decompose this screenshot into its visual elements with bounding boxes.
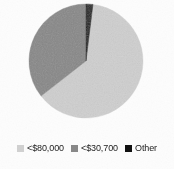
pie-slices-group (29, 4, 143, 118)
legend-swatch-under-30700 (71, 145, 78, 152)
legend-item-under-80000: <$80,000 (17, 143, 64, 153)
pie-svg (0, 0, 174, 134)
chart-legend: <$80,000 <$30,700 Other (0, 139, 174, 157)
legend-item-under-30700: <$30,700 (71, 143, 118, 153)
legend-swatch-other (125, 145, 132, 152)
pie-chart-figure: <$80,000 <$30,700 Other (0, 0, 174, 169)
legend-label-under-30700: <$30,700 (81, 143, 118, 153)
legend-swatch-under-80000 (17, 145, 24, 152)
legend-label-other: Other (135, 143, 157, 153)
legend-item-other: Other (125, 143, 157, 153)
legend-label-under-80000: <$80,000 (27, 143, 64, 153)
pie-plot-area (0, 0, 174, 134)
